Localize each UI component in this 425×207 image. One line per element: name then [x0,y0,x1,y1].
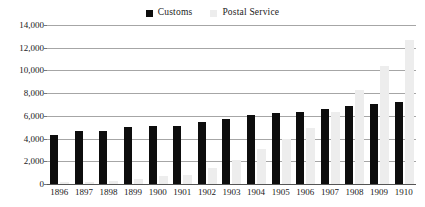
y-axis-tick-label: 2,000 [2,157,44,166]
x-axis-tick-label: 1899 [124,188,142,197]
y-axis-tick-label: 10,000 [2,66,44,75]
x-axis-tick-label: 1896 [50,188,68,197]
bar-customs [124,127,132,184]
bar-postal-service [405,40,414,184]
x-axis-baseline [47,184,416,185]
bar-group [219,25,244,184]
y-axis-tick-label: 14,000 [2,21,44,30]
x-axis-tick-label: 1897 [75,188,93,197]
bar-customs [321,109,329,184]
bar-postal-service [208,168,217,184]
bar-customs [99,131,107,184]
bar-customs [222,119,230,184]
bar-customs [149,126,157,184]
bar-group [391,25,416,184]
x-axis-tick-label: 1900 [149,188,167,197]
bar-group [47,25,72,184]
bar-group [367,25,392,184]
bar-postal-service [380,66,389,184]
bar-group [121,25,146,184]
bar-customs [173,126,181,184]
bar-customs [370,104,378,184]
bar-customs [50,135,58,184]
x-axis-tick-label: 1905 [272,188,290,197]
x-axis-tick-label: 1901 [173,188,191,197]
bar-customs [247,115,255,184]
x-axis-tick-label: 1903 [223,188,241,197]
y-axis-tick-label: 8,000 [2,89,44,98]
legend-label-customs: Customs [158,8,193,18]
bar-customs [296,112,304,184]
y-axis-tick-label: 6,000 [2,111,44,120]
bar-postal-service [257,149,266,184]
y-axis-tick-label: 0 [2,180,44,189]
bar-customs [345,106,353,184]
bar-group [244,25,269,184]
legend-label-postal-service: Postal Service [222,8,279,18]
legend-square-icon-customs [146,10,153,17]
bar-postal-service [355,90,364,184]
x-axis-tick-label: 1907 [321,188,339,197]
x-axis-tick-label: 1904 [247,188,265,197]
bar-group [195,25,220,184]
bars-layer [47,25,416,184]
x-axis-tick-label: 1910 [395,188,413,197]
bar-group [318,25,343,184]
x-axis-tick-label: 1898 [100,188,118,197]
y-axis-tick-label: 12,000 [2,43,44,52]
chart-legend: Customs Postal Service [0,5,425,21]
bar-customs [198,122,206,184]
bar-group [342,25,367,184]
bar-postal-service [159,176,168,184]
bar-postal-service [282,139,291,184]
bar-group [72,25,97,184]
legend-square-icon-postal-service [210,10,217,17]
bar-postal-service [331,112,340,184]
bar-customs [272,113,280,184]
x-axis-tick-label: 1908 [346,188,364,197]
bar-group [293,25,318,184]
bar-group [170,25,195,184]
legend-item-postal-service: Postal Service [210,8,279,18]
bar-customs [395,102,403,184]
bar-postal-service [306,128,315,184]
legend-item-customs: Customs [146,8,193,18]
y-axis-tick-label: 4,000 [2,134,44,143]
bar-group [145,25,170,184]
x-axis: 1896189718981899190019011902190319041905… [47,186,416,204]
bar-group [268,25,293,184]
y-axis: 02,0004,0006,0008,00010,00012,00014,000 [0,0,44,207]
bar-group [96,25,121,184]
x-axis-tick-label: 1906 [296,188,314,197]
bar-customs [75,131,83,184]
x-axis-tick-label: 1902 [198,188,216,197]
bar-chart: Customs Postal Service 02,0004,0006,0008… [0,0,425,207]
x-axis-tick-label: 1909 [370,188,388,197]
bar-postal-service [183,175,192,184]
bar-postal-service [232,160,241,184]
